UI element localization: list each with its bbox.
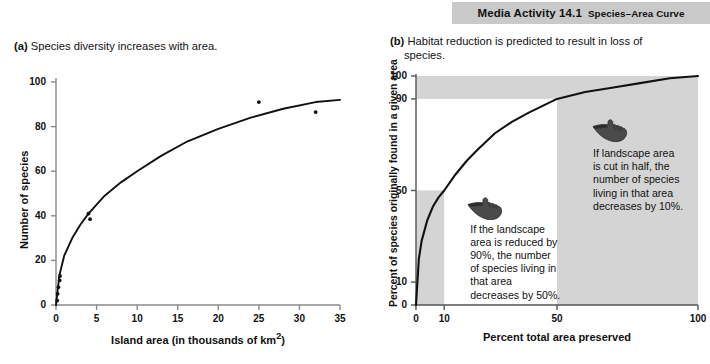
panel-a-y-tick-60: 60: [35, 165, 46, 176]
pointing-hand-icon: [466, 195, 508, 221]
panel-a-x-tick-25: 25: [253, 313, 264, 324]
pointing-hand-icon: [591, 117, 633, 143]
panel-a-x-axis-title: Island area (in thousands of km2): [111, 331, 285, 346]
figure-root: Media Activity 14.1 Species–Area Curve (…: [0, 0, 710, 364]
panel-b-caption: (b) Habitat reduction is predicted to re…: [390, 35, 690, 62]
panel-a-data-point: [57, 285, 61, 289]
panel-b-chart: If the landscape area is reduced by 90%,…: [380, 60, 710, 360]
panel-b-annotation-left: If the landscape area is reduced by 90%,…: [470, 223, 588, 302]
panel-a-y-tick-80: 80: [35, 121, 46, 132]
panel-a-y-tick-100: 100: [29, 76, 46, 87]
panel-b-annotation-right: If landscape area is cut in half, the nu…: [593, 147, 710, 213]
panel-b-y-tick-10: 10: [396, 276, 407, 287]
panel-b-y-tick-90: 90: [396, 93, 407, 104]
panel-b-caption-line1: Habitat reduction is predicted to result…: [407, 35, 642, 47]
panel-b-x-tick-100: 100: [690, 313, 707, 324]
panel-a-y-tick-40: 40: [35, 210, 46, 221]
media-activity-banner: Media Activity 14.1 Species–Area Curve: [452, 2, 710, 24]
panel-b-x-tick-0: 0: [413, 313, 419, 324]
panel-b-x-axis-title: Percent total area preserved: [483, 331, 631, 343]
panel-a-caption-text: Species diversity increases with area.: [31, 40, 218, 52]
pointing-hand-glyph: [466, 195, 508, 221]
panel-a-x-tick-0: 0: [53, 313, 59, 324]
panel-a-data-point: [314, 110, 318, 114]
panel-a-data-point: [55, 299, 59, 303]
panel-a-x-tick-10: 10: [132, 313, 143, 324]
panel-a-y-axis-title: Number of species: [18, 150, 30, 248]
panel-a-data-point: [87, 212, 91, 216]
panel-b-x-tick-50: 50: [551, 313, 562, 324]
panel-a-data-point: [58, 279, 62, 283]
panel-a-chart: Number of species Island area (in thousa…: [0, 60, 360, 360]
banner-subtitle: Species–Area Curve: [588, 8, 685, 19]
panel-a-data-point: [257, 100, 261, 104]
panel-a-label: (a): [14, 40, 28, 52]
panel-a-x-tick-15: 15: [172, 313, 183, 324]
panel-a-x-tick-30: 30: [294, 313, 305, 324]
panel-a-x-tick-20: 20: [213, 313, 224, 324]
panel-b-y-tick-100: 100: [390, 70, 407, 81]
panel-a-y-tick-20: 20: [35, 254, 46, 265]
panel-a-x-tick-35: 35: [334, 313, 345, 324]
panel-a-caption: (a) Species diversity increases with are…: [14, 40, 334, 54]
panel-a-data-point: [88, 217, 92, 221]
panel-b-y-tick-0: 0: [401, 299, 407, 310]
banner-title: Media Activity 14.1: [478, 7, 582, 19]
panel-b-y-tick-50: 50: [396, 185, 407, 196]
panel-a-fit-curve: [56, 100, 340, 305]
panel-a-data-point: [58, 274, 62, 278]
panel-a-y-tick-0: 0: [40, 299, 46, 310]
panel-a-x-tick-5: 5: [94, 313, 100, 324]
pointing-hand-glyph: [591, 117, 633, 143]
panel-a-data-point: [56, 292, 60, 296]
panel-b-label: (b): [390, 35, 404, 47]
panel-b-x-tick-10: 10: [439, 313, 450, 324]
